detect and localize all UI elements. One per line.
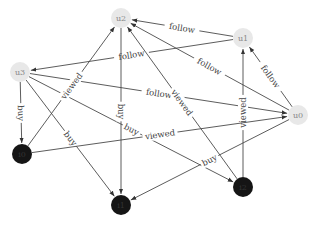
edge-label: follow: [168, 21, 196, 35]
edge-label: viewed: [143, 127, 176, 141]
node-label: u0: [293, 111, 303, 120]
edge-label: follow: [145, 87, 173, 101]
node-label: u3: [15, 68, 25, 77]
edges-layer: followfollowfollowfollowfollowbuybuybuyv…: [16, 20, 292, 200]
node-i0[interactable]: i0: [12, 144, 32, 164]
node-u3[interactable]: u3: [10, 62, 30, 82]
node-label: u2: [116, 14, 126, 23]
node-i2[interactable]: i2: [233, 177, 253, 197]
node-label: u1: [238, 34, 248, 43]
edge-u0-u1: follow: [249, 47, 292, 107]
edge-i2-u1: viewed: [238, 49, 248, 177]
edge-label: follow: [196, 56, 224, 78]
edge-u1-u2: follow: [132, 20, 233, 37]
node-label: i1: [117, 201, 125, 210]
node-label: i2: [239, 183, 247, 192]
edge-label: buy: [116, 104, 126, 120]
node-u1[interactable]: u1: [233, 28, 253, 48]
edge-u3-i0: buy: [16, 82, 26, 143]
node-u0[interactable]: u0: [288, 105, 308, 125]
edge-i0-u2: viewed: [28, 27, 115, 146]
node-label: i0: [18, 150, 26, 159]
edge-label: viewed: [238, 97, 248, 129]
edge-label: viewed: [168, 86, 195, 118]
node-u2[interactable]: u2: [111, 8, 131, 28]
edge-label: follow: [118, 48, 146, 62]
edge-label: buy: [16, 105, 26, 121]
edge-label: viewed: [58, 70, 85, 102]
graph-canvas: followfollowfollowfollowfollowbuybuybuyv…: [0, 0, 318, 229]
node-i1[interactable]: i1: [111, 195, 131, 215]
